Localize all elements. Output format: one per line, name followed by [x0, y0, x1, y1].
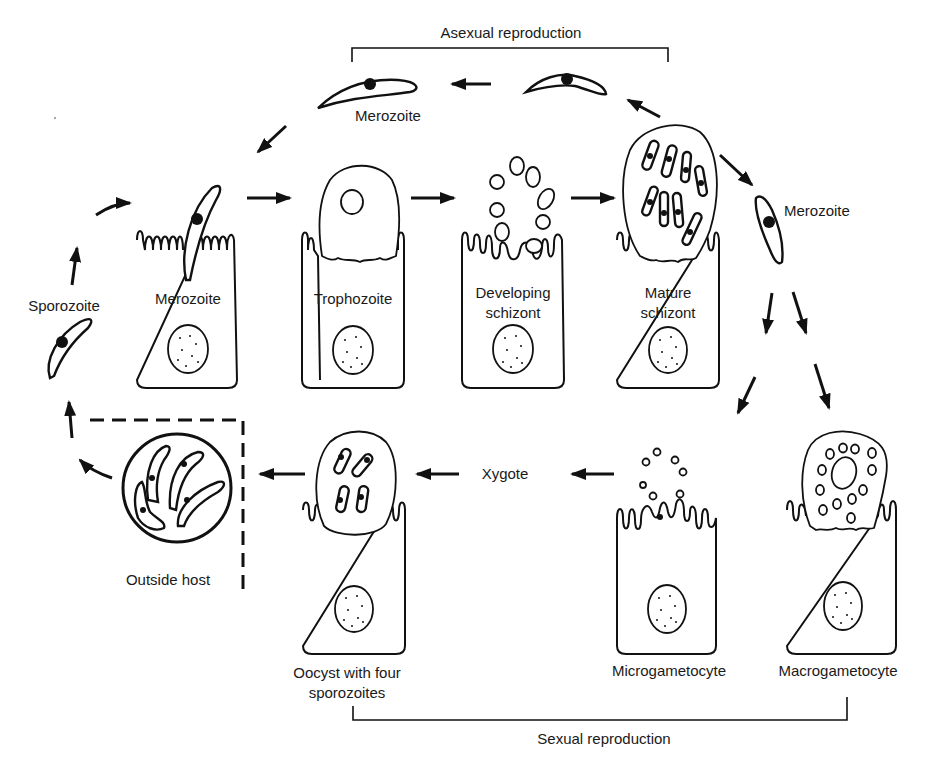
- cell-label-line1: Developing: [475, 284, 550, 301]
- cell-label: Merozoite: [155, 290, 221, 307]
- cell-mature-schizont: Mature schizont: [617, 125, 719, 388]
- merozoite-right-label: Merozoite: [784, 202, 850, 219]
- merozoite-right: [756, 197, 783, 264]
- merozoite-top-label: Merozoite: [355, 107, 421, 124]
- arrow-down-icon: [793, 292, 806, 333]
- cell-microgametocyte: [617, 449, 716, 655]
- cell-label: Trophozoite: [314, 290, 393, 307]
- merozoite-top-right: [526, 73, 606, 94]
- sexual-reproduction-bracket: Sexual reproduction: [353, 697, 847, 747]
- arrow-down-icon: [766, 293, 772, 333]
- arrow-curve-right-icon: [96, 203, 130, 215]
- sexual-reproduction-label: Sexual reproduction: [537, 730, 670, 747]
- oocyst-label-line2: sporozoites: [309, 684, 386, 701]
- arrow-up-left-icon: [628, 100, 660, 117]
- arrow-up-icon: [72, 248, 77, 285]
- oocyst-label-line1: Oocyst with four: [293, 664, 401, 681]
- arrow-down-left-icon: [738, 377, 755, 413]
- xygote-label: Xygote: [482, 465, 529, 482]
- arrow-up-icon: [69, 402, 72, 438]
- cell-label-line2: schizont: [640, 304, 696, 321]
- sporozoite: [49, 319, 92, 378]
- coccidian-life-cycle-diagram: Asexual reproduction Merozoite: [0, 0, 930, 771]
- microgametocyte-label: Microgametocyte: [612, 662, 726, 679]
- merozoite-top-left: [318, 78, 416, 108]
- arrow-down-left-icon: [258, 126, 286, 152]
- cell-merozoite: Merozoite: [137, 186, 237, 388]
- cell-oocyst: [303, 432, 405, 655]
- sporozoite-label: Sporozoite: [28, 297, 100, 314]
- arrow-curve-up-icon: [80, 460, 112, 478]
- speck: [54, 117, 56, 119]
- cell-label-line2: schizont: [485, 304, 541, 321]
- arrow-down-right-icon: [720, 155, 752, 185]
- arrow-down-right-icon: [815, 364, 829, 408]
- cell-macrogametocyte: [787, 431, 896, 654]
- cell-trophozoite: Trophozoite: [302, 166, 404, 388]
- asexual-reproduction-label: Asexual reproduction: [441, 24, 582, 41]
- cell-label-line1: Mature: [645, 284, 692, 301]
- outside-host-label: Outside host: [126, 571, 211, 588]
- cell-developing-schizont: Developing schizont: [462, 157, 564, 388]
- asexual-reproduction-bracket: Asexual reproduction: [352, 24, 668, 62]
- macrogametocyte-label: Macrogametocyte: [778, 662, 897, 679]
- sporulated-oocyst-outside: [123, 434, 231, 542]
